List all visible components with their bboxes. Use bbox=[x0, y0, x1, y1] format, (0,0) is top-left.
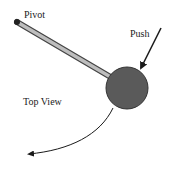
pendulum-top-view-diagram: Pivot Push Top View bbox=[0, 0, 169, 169]
pivot-point-icon bbox=[14, 19, 20, 25]
rod bbox=[17, 22, 114, 79]
pendulum-ball bbox=[106, 67, 148, 109]
push-label: Push bbox=[130, 29, 149, 39]
top-view-label: Top View bbox=[23, 97, 62, 107]
curved-motion-arrow-icon bbox=[29, 108, 113, 154]
diagram-graphics bbox=[0, 0, 169, 169]
pivot-label: Pivot bbox=[24, 10, 45, 20]
